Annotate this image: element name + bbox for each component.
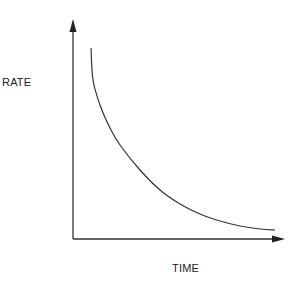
y-axis-arrow-icon — [70, 19, 77, 32]
rate-curve — [91, 48, 275, 230]
x-axis — [73, 236, 285, 243]
x-axis-label: TIME — [172, 262, 199, 274]
y-axis — [70, 19, 77, 239]
y-axis-label: RATE — [2, 76, 31, 88]
x-axis-arrow-icon — [272, 236, 285, 243]
chart-canvas — [0, 0, 297, 282]
